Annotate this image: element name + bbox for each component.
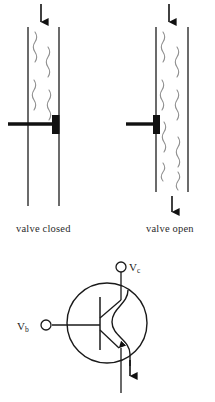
caption-valve-open: valve open — [146, 224, 194, 235]
valve-gate-closed — [52, 115, 60, 134]
collector-label-subscript: c — [137, 266, 140, 275]
flow-squiggles-closed — [32, 32, 50, 120]
panel-valve-open — [126, 4, 188, 212]
base-label-main: V — [17, 320, 25, 332]
panel-valve-closed — [8, 4, 60, 206]
transistor-symbol — [41, 262, 147, 393]
collector-label: Vc — [129, 262, 140, 273]
base-terminal-circle — [41, 320, 51, 330]
collector-label-main: V — [129, 261, 137, 273]
caption-valve-closed: valve closed — [16, 224, 71, 235]
collector-terminal-circle — [116, 262, 126, 272]
figure-root: valve closed valve open Vc Vb — [0, 0, 215, 402]
flow-squiggles-open — [160, 32, 179, 190]
transistor-envelope — [67, 283, 147, 363]
base-label-subscript: b — [25, 325, 29, 334]
base-label: Vb — [17, 321, 29, 332]
valve-transistor-figure — [0, 0, 215, 402]
valve-gate-open — [153, 115, 160, 134]
